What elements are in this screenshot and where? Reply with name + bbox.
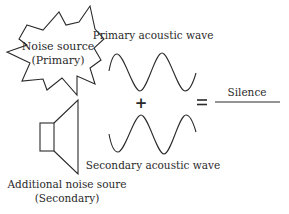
primary-wave-label: Primary acoustic wave bbox=[93, 29, 214, 41]
secondary-noise-source: Additional noise soure (Secondary) bbox=[6, 100, 126, 204]
secondary-source-label-line2: (Secondary) bbox=[35, 192, 100, 204]
silence-label: Silence bbox=[228, 86, 267, 98]
noise-cancellation-diagram: Noise source (Primary) Additional noise … bbox=[0, 0, 289, 214]
plus-operator: + bbox=[135, 94, 148, 112]
primary-source-label-line2: (Primary) bbox=[31, 54, 84, 67]
sine-wave-icon bbox=[109, 53, 196, 91]
equals-operator bbox=[197, 100, 207, 105]
primary-wave: Primary acoustic wave bbox=[93, 29, 214, 91]
primary-source-label-line1: Noise source bbox=[22, 40, 95, 53]
secondary-wave-label: Secondary acoustic wave bbox=[86, 159, 220, 171]
silence-result: Silence bbox=[215, 86, 280, 102]
secondary-wave: Secondary acoustic wave bbox=[86, 115, 220, 171]
inverted-sine-wave-icon bbox=[109, 115, 196, 154]
primary-noise-source: Noise source (Primary) bbox=[7, 6, 104, 95]
secondary-source-label-line1: Additional noise soure bbox=[6, 178, 126, 190]
speaker-icon bbox=[40, 100, 78, 174]
